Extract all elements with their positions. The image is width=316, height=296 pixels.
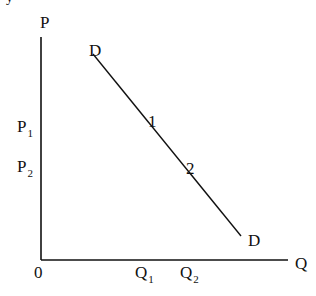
demand-end-label: D [248, 232, 260, 249]
p2-sub: 2 [27, 167, 33, 179]
p2-label: P2 [17, 158, 33, 175]
p2-main: P [17, 157, 26, 176]
top-text-fragment: y [6, 0, 13, 5]
demand-curve [93, 54, 241, 236]
q1-label: Q1 [135, 264, 154, 281]
q1-main: Q [135, 263, 147, 282]
x-axis-label: Q [295, 255, 307, 272]
p1-sub: 1 [27, 127, 33, 139]
q2-label: Q2 [180, 264, 199, 281]
point-1-label: 1 [148, 113, 157, 130]
diagram-canvas [0, 0, 316, 296]
q1-sub: 1 [148, 273, 154, 285]
p1-main: P [17, 117, 26, 136]
y-axis-label: P [40, 14, 49, 31]
q2-main: Q [180, 263, 192, 282]
point-2-label: 2 [186, 160, 195, 177]
p1-label: P1 [17, 118, 33, 135]
demand-start-label: D [89, 42, 101, 59]
q2-sub: 2 [193, 273, 199, 285]
origin-label: 0 [34, 264, 43, 281]
